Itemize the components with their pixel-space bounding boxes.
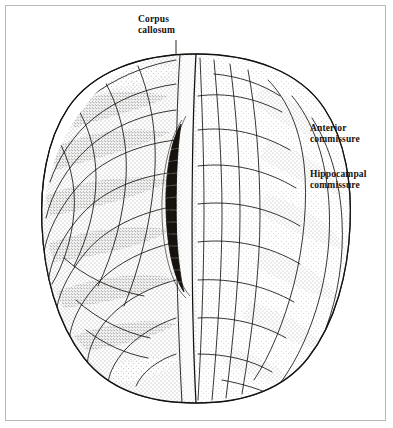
label-corpus-callosum-line2: callosum xyxy=(138,25,175,36)
label-anterior-commissure-line2: commissure xyxy=(310,134,360,145)
label-hippocampal-commissure: Hippocampal commissure xyxy=(310,169,367,191)
label-anterior-commissure-line1: Anterior xyxy=(310,123,347,133)
label-hippocampal-commissure-line1: Hippocampal xyxy=(310,169,367,179)
illustration-plate: Corpus callosum Anterior commissure Hipp… xyxy=(0,0,393,428)
label-corpus-callosum-line1: Corpus xyxy=(138,14,169,24)
left-hemisphere xyxy=(30,45,205,415)
brain-figure xyxy=(0,0,393,428)
cerebrum xyxy=(30,45,363,415)
right-hemisphere xyxy=(188,45,363,415)
label-anterior-commissure: Anterior commissure xyxy=(310,123,360,145)
label-hippocampal-commissure-line2: commissure xyxy=(310,180,367,191)
label-corpus-callosum: Corpus callosum xyxy=(138,14,175,36)
